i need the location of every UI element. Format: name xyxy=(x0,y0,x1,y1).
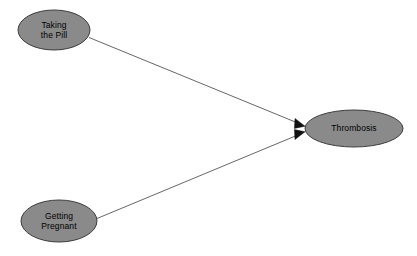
arrowhead-pill-to-thrombosis xyxy=(294,119,305,129)
edge-line-pill-to-thrombosis xyxy=(89,38,299,124)
diagram-graphics xyxy=(0,0,417,256)
arrowhead-pregnant-to-thrombosis xyxy=(294,130,305,140)
edge-line-pregnant-to-thrombosis xyxy=(97,135,299,219)
node-getting-pregnant[interactable] xyxy=(21,200,97,242)
node-thrombosis[interactable] xyxy=(305,110,403,147)
edge-pregnant-to-thrombosis[interactable] xyxy=(97,130,305,219)
diagram-canvas: Taking the Pill Getting Pregnant Thrombo… xyxy=(0,0,417,256)
node-taking-the-pill[interactable] xyxy=(18,10,90,50)
edge-pill-to-thrombosis[interactable] xyxy=(89,38,305,129)
